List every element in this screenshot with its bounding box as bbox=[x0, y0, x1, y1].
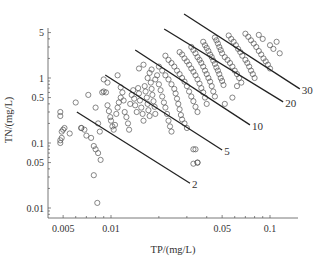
data-point bbox=[108, 115, 113, 120]
data-point bbox=[145, 75, 150, 80]
data-point bbox=[218, 47, 223, 52]
data-point bbox=[256, 32, 261, 37]
data-point bbox=[120, 90, 125, 95]
data-point bbox=[116, 100, 121, 105]
ratio-line-label: 10 bbox=[252, 120, 264, 132]
data-point bbox=[187, 89, 192, 94]
x-tick-label: 0.05 bbox=[213, 223, 231, 234]
data-point bbox=[91, 173, 96, 178]
data-point bbox=[234, 84, 239, 89]
y-tick-label: 0.1 bbox=[32, 138, 45, 149]
data-point bbox=[160, 94, 165, 99]
ratio-line-label: 20 bbox=[285, 97, 297, 109]
data-point bbox=[158, 88, 163, 93]
data-point bbox=[243, 31, 248, 36]
data-point bbox=[67, 131, 72, 136]
data-point bbox=[147, 113, 152, 118]
data-point bbox=[163, 105, 168, 110]
data-point bbox=[161, 100, 166, 105]
data-point bbox=[105, 80, 110, 85]
data-point bbox=[79, 125, 84, 130]
data-point bbox=[141, 118, 146, 123]
data-point bbox=[142, 84, 147, 89]
ratio-line-label: 2 bbox=[192, 178, 198, 190]
data-point bbox=[195, 109, 200, 114]
data-point bbox=[174, 68, 179, 73]
data-point bbox=[226, 33, 231, 38]
chart: 25102030 0.0050.010.050.1 0.010.050.10.5… bbox=[0, 0, 321, 263]
data-point bbox=[169, 60, 174, 65]
data-point bbox=[153, 111, 158, 116]
data-point bbox=[230, 64, 235, 69]
data-point bbox=[134, 109, 139, 114]
data-point bbox=[118, 95, 123, 100]
data-point bbox=[115, 105, 120, 110]
data-point bbox=[121, 98, 126, 103]
data-point bbox=[111, 127, 116, 132]
data-point bbox=[97, 129, 102, 134]
data-point bbox=[105, 103, 110, 108]
x-tick-label: 0.01 bbox=[102, 223, 120, 234]
data-point bbox=[277, 51, 282, 56]
y-axis-title: TN/(mg/L) bbox=[3, 96, 15, 143]
data-point bbox=[136, 86, 141, 91]
x-tick-label: 0.1 bbox=[264, 223, 277, 234]
data-point bbox=[124, 115, 129, 120]
y-ticks: 0.010.050.10.515 bbox=[27, 27, 52, 214]
data-point bbox=[58, 113, 63, 118]
data-point bbox=[89, 135, 94, 140]
ratio-line-label: 5 bbox=[224, 145, 230, 157]
data-point bbox=[177, 107, 182, 112]
data-point bbox=[217, 44, 222, 49]
data-point bbox=[125, 121, 130, 126]
data-point bbox=[215, 68, 220, 73]
data-point bbox=[215, 41, 220, 46]
data-point bbox=[95, 200, 100, 205]
data-point bbox=[148, 80, 153, 85]
x-tick-label: 0.005 bbox=[52, 223, 75, 234]
data-point bbox=[222, 101, 227, 106]
data-point bbox=[127, 127, 132, 132]
data-point bbox=[271, 46, 276, 51]
data-point bbox=[96, 151, 101, 156]
data-point bbox=[133, 103, 138, 108]
data-point bbox=[136, 66, 141, 71]
y-tick-label: 0.5 bbox=[32, 92, 45, 103]
x-axis-title: TP/(mg/L) bbox=[151, 244, 196, 256]
data-point bbox=[176, 101, 181, 106]
data-point bbox=[143, 89, 148, 94]
data-point bbox=[114, 111, 119, 116]
data-point bbox=[211, 89, 216, 94]
data-point bbox=[98, 157, 103, 162]
data-point bbox=[169, 129, 174, 134]
ratio-line-5 bbox=[105, 75, 222, 150]
data-point bbox=[251, 41, 256, 46]
data-point bbox=[132, 96, 137, 101]
y-tick-label: 0.01 bbox=[27, 203, 45, 214]
data-point bbox=[248, 38, 253, 43]
data-point bbox=[156, 82, 161, 87]
data-point bbox=[167, 124, 172, 129]
data-point bbox=[146, 108, 151, 113]
data-point bbox=[150, 92, 155, 97]
y-tick-label: 0.05 bbox=[27, 157, 45, 168]
data-point bbox=[86, 92, 91, 97]
data-point bbox=[246, 34, 251, 39]
data-point bbox=[191, 99, 196, 104]
data-point bbox=[166, 118, 171, 123]
data-point bbox=[173, 91, 178, 96]
data-point bbox=[209, 84, 214, 89]
data-point bbox=[82, 127, 87, 132]
data-point bbox=[93, 105, 98, 110]
data-point bbox=[141, 62, 146, 67]
data-point bbox=[177, 72, 182, 77]
ratio-line-label: 30 bbox=[302, 84, 314, 96]
data-point bbox=[139, 105, 144, 110]
y-tick-label: 5 bbox=[39, 27, 44, 38]
data-point bbox=[230, 95, 235, 100]
y-tick-label: 1 bbox=[39, 73, 44, 84]
data-point bbox=[62, 125, 67, 130]
data-point bbox=[151, 99, 156, 104]
data-point bbox=[193, 104, 198, 109]
data-point bbox=[212, 94, 217, 99]
